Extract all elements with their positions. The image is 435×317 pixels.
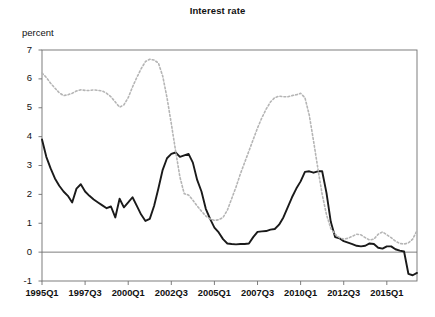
y-axis-tick-label: 2: [18, 188, 32, 199]
y-axis-tick-label: 6: [18, 72, 32, 83]
x-axis-tick-label: 1997Q3: [69, 288, 102, 298]
y-axis-tick-label: 5: [18, 101, 32, 112]
series-line-dashed: [42, 59, 417, 244]
chart-figure: Interest rate percent 76543210-1 1995Q11…: [0, 0, 435, 317]
y-axis-tick-label: 0: [18, 246, 32, 257]
x-axis-ticks: [42, 281, 387, 285]
y-axis-tick-label: 3: [18, 159, 32, 170]
x-axis-tick-label: 2012Q3: [327, 288, 360, 298]
x-axis-tick-label: 2005Q1: [198, 288, 231, 298]
data-series-group: [42, 59, 417, 275]
plot-area: [0, 0, 435, 317]
x-axis-tick-label: 2010Q1: [284, 288, 317, 298]
y-axis-ticks: [39, 50, 43, 281]
x-axis-tick-label: 1995Q1: [25, 288, 58, 298]
y-axis-tick-label: -1: [18, 275, 32, 286]
x-axis-tick-label: 2015Q1: [370, 288, 403, 298]
y-axis-tick-label: 1: [18, 217, 32, 228]
x-axis-tick-label: 2007Q3: [241, 288, 274, 298]
y-axis-tick-label: 7: [18, 44, 32, 55]
x-axis-tick-label: 2002Q3: [155, 288, 188, 298]
x-axis-tick-label: 2000Q1: [112, 288, 145, 298]
y-axis-tick-label: 4: [18, 130, 32, 141]
series-line-solid: [42, 140, 417, 276]
